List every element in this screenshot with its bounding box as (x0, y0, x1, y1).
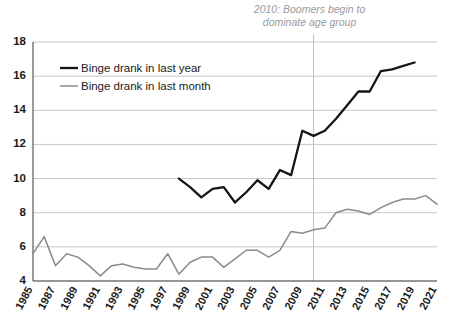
x-tick-label: 2013 (327, 284, 349, 311)
x-tick-label: 1991 (80, 284, 102, 311)
x-tick-label: 1997 (147, 284, 169, 311)
x-tick-label: 1987 (35, 284, 57, 311)
y-tick-label: 18 (13, 35, 26, 47)
x-tick-label: 2005 (237, 284, 259, 311)
y-tick-label: 6 (20, 240, 26, 252)
data-series-group (33, 62, 437, 275)
x-tick-label: 2003 (215, 284, 237, 311)
y-axis-labels: 4681012141618 (13, 35, 26, 286)
x-tick-label: 2019 (394, 284, 416, 311)
y-tick-label: 16 (13, 69, 26, 81)
x-tick-label: 1995 (125, 284, 147, 311)
legend-label-last-month: Binge drank in last month (81, 80, 211, 92)
annotation-line-1: 2010: Boomers begin to (253, 3, 366, 15)
y-tick-label: 8 (20, 206, 27, 218)
x-tick-label: 2007 (260, 284, 282, 311)
series-line-last-month (33, 196, 437, 276)
series-line-last-year (179, 62, 415, 202)
y-tick-label: 10 (13, 172, 26, 184)
y-tick-label: 4 (20, 274, 27, 286)
x-tick-label: 1999 (170, 284, 192, 311)
x-tick-label: 2017 (372, 284, 394, 311)
x-tick-label: 2001 (192, 284, 214, 311)
x-axis-labels: 1985198719891991199319951997199920012003… (13, 284, 439, 311)
x-tick-label: 1985 (13, 284, 35, 311)
annotation-group: 2010: Boomers begin todominate age group (253, 3, 366, 28)
annotation-line-2: dominate age group (263, 16, 357, 28)
line-chart: 4681012141618 19851987198919911993199519… (0, 0, 452, 335)
chart-container: 4681012141618 19851987198919911993199519… (0, 0, 452, 335)
y-tick-label: 14 (13, 103, 26, 115)
y-tick-label: 12 (13, 137, 26, 149)
x-tick-label: 2015 (349, 284, 371, 311)
x-tick-label: 1989 (58, 284, 80, 311)
x-tick-label: 2021 (417, 284, 439, 311)
x-tick-label: 2009 (282, 284, 304, 311)
x-tick-label: 1993 (102, 284, 124, 311)
legend-label-last-year: Binge drank in last year (81, 62, 201, 74)
x-tick-label: 2011 (305, 284, 327, 311)
